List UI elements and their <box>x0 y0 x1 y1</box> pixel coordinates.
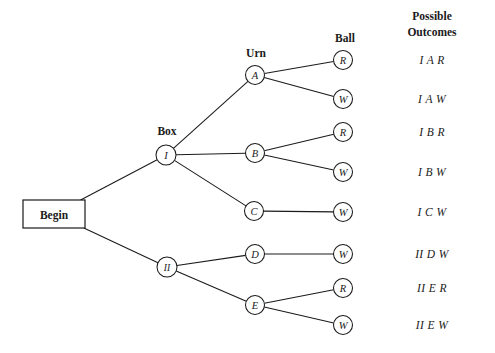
tree-edges-group <box>81 62 334 323</box>
tree-node-label-urn-C: C <box>250 206 258 217</box>
tree-edge <box>264 62 333 74</box>
tree-node-label-ball-2: W <box>339 94 349 105</box>
tree-node-label-urn-A: A <box>251 70 259 81</box>
tree-edge <box>264 134 334 151</box>
outcome-label-8: II E W <box>415 319 449 331</box>
tree-node-label-ball-4: W <box>339 167 349 178</box>
outcomes-header-line1: Possible <box>412 10 452 22</box>
begin-node-label: Begin <box>40 209 69 222</box>
tree-labels-group: BeginIIIABCDERWRWWWRWBoxUrnBallPossibleO… <box>40 10 457 331</box>
outcome-label-6: II D W <box>414 248 450 260</box>
tree-node-label-urn-B: B <box>252 148 259 159</box>
outcome-label-3: I B R <box>418 126 445 138</box>
tree-node-label-box-II: II <box>163 263 171 273</box>
tree-node-label-box-I: I <box>163 150 168 161</box>
column-header-box: Box <box>157 125 176 137</box>
tree-edge <box>176 153 246 155</box>
tree-edge <box>264 290 333 303</box>
outcome-label-7: II E R <box>416 282 447 294</box>
column-header-ball: Ball <box>335 32 355 44</box>
tree-edge <box>264 155 333 170</box>
diagram-canvas: BeginIIIABCDERWRWWWRWBoxUrnBallPossibleO… <box>0 0 495 353</box>
tree-node-label-ball-5: W <box>339 207 349 218</box>
tree-edge <box>173 81 247 148</box>
tree-node-label-ball-3: R <box>339 127 347 138</box>
tree-edge <box>263 211 333 212</box>
outcomes-header-line2: Outcomes <box>407 26 457 38</box>
tree-edge <box>84 228 158 263</box>
probability-tree-svg: BeginIIIABCDERWRWWWRWBoxUrnBallPossibleO… <box>0 0 495 353</box>
tree-edge <box>174 160 246 206</box>
tree-node-label-urn-E: E <box>251 300 259 311</box>
outcome-label-2: I A W <box>417 93 447 105</box>
tree-node-label-ball-6: W <box>339 249 349 260</box>
tree-edge <box>264 77 334 96</box>
tree-node-label-urn-D: D <box>250 249 259 260</box>
tree-node-label-ball-1: R <box>339 55 347 66</box>
tree-edge <box>81 160 158 200</box>
tree-node-label-ball-8: W <box>339 320 349 331</box>
tree-edge <box>264 307 333 323</box>
tree-edge <box>176 271 246 301</box>
tree-nodes-group <box>23 51 353 335</box>
column-header-urn: Urn <box>246 47 266 59</box>
outcome-label-4: I B W <box>417 166 447 178</box>
outcome-label-1: I A R <box>418 54 444 66</box>
tree-node-label-ball-7: R <box>339 283 347 294</box>
outcome-label-5: I C W <box>417 206 448 218</box>
tree-edge <box>177 255 246 265</box>
